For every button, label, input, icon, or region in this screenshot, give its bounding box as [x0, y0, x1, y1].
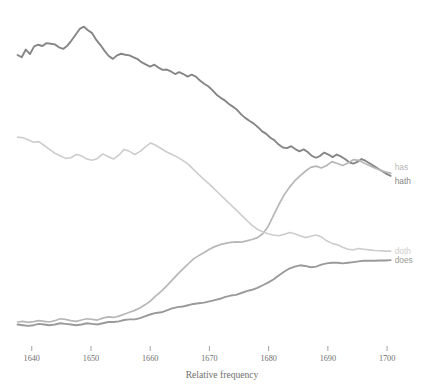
series-label-hath[interactable]: hath [395, 176, 412, 186]
x-tick-label-1670: 1670 [201, 354, 217, 363]
chart-background [0, 0, 424, 389]
chart-canvas: 1640165016601670168016901700 hathhasdoth… [0, 0, 424, 389]
x-axis-title: Relative frequency [186, 369, 259, 380]
x-tick-label-1690: 1690 [320, 354, 336, 363]
series-label-does[interactable]: does [395, 255, 413, 265]
x-tick-label-1650: 1650 [83, 354, 99, 363]
x-tick-label-1700: 1700 [379, 354, 395, 363]
series-label-has[interactable]: has [395, 162, 409, 172]
ngram-chart: 1640165016601670168016901700 hathhasdoth… [0, 0, 424, 389]
x-tick-label-1660: 1660 [142, 354, 158, 363]
x-tick-label-1680: 1680 [260, 354, 276, 363]
x-tick-label-1640: 1640 [24, 354, 40, 363]
